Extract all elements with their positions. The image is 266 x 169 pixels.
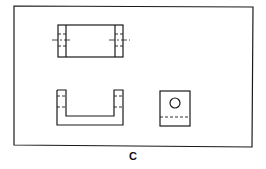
drawing-frame [14,6,253,147]
hole-circle [170,98,180,108]
front-view [57,90,123,125]
figure-caption: C [0,150,266,162]
side-view [160,91,190,126]
top-view [52,25,130,57]
orthographic-drawing [0,0,266,169]
